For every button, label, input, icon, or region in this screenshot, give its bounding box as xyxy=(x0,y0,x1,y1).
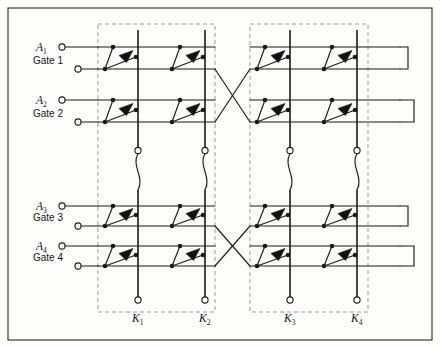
cell-triangle-icon xyxy=(271,104,285,116)
cell-diag-right xyxy=(172,110,203,122)
cell-node-rail xyxy=(134,253,139,258)
cell-triangle-icon xyxy=(119,104,133,116)
cell-node-rail xyxy=(286,213,291,218)
crossover-upper xyxy=(215,69,250,122)
return-link-upper-1 xyxy=(400,47,408,69)
terminal-gate3[interactable] xyxy=(75,223,81,229)
terminal-k2[interactable] xyxy=(202,297,208,303)
cell-triangle-icon xyxy=(119,209,133,221)
cell-diag-left xyxy=(324,100,332,122)
switch-cell-a1-k1[interactable] xyxy=(103,45,139,72)
cell-triangle-icon xyxy=(186,104,200,116)
switch-cell-a2-k2[interactable] xyxy=(170,98,206,125)
return-link-lower-2 xyxy=(400,246,414,266)
terminal-a2[interactable] xyxy=(59,97,65,103)
crossover-lower xyxy=(215,226,250,266)
crossbar-matrix-diagram: A1 A2 A3 A4 Gate 1 Gate 2 Gate 3 Gate 4 … xyxy=(0,0,440,348)
cell-triangle-icon xyxy=(338,209,352,221)
label-a1: A1 xyxy=(35,41,47,56)
cell-node-rail xyxy=(286,253,291,258)
switch-cell-a3-k3[interactable] xyxy=(255,204,291,229)
label-k2: K2 xyxy=(198,312,211,327)
terminal-k1-mid[interactable] xyxy=(135,147,141,153)
dashed-group-left xyxy=(98,24,215,312)
cell-diag-right xyxy=(257,255,288,266)
terminal-k4-mid[interactable] xyxy=(354,147,360,153)
right-edge-returns xyxy=(400,47,414,266)
terminal-gate1[interactable] xyxy=(75,66,81,72)
switch-cell-a2-k3[interactable] xyxy=(255,98,291,125)
curve-link-k1 xyxy=(136,154,140,190)
switch-cell-a4-k1[interactable] xyxy=(103,244,139,269)
terminal-k4[interactable] xyxy=(354,297,360,303)
cell-diag-right xyxy=(324,215,355,226)
label-gate3: Gate 3 xyxy=(33,212,63,223)
label-k3: K3 xyxy=(283,312,296,327)
switch-cell-a4-k2[interactable] xyxy=(170,244,206,269)
switch-cell-a1-k2[interactable] xyxy=(170,45,206,72)
cell-triangle-icon xyxy=(186,51,200,63)
cell-node-rail xyxy=(134,55,139,60)
cell-diag-right xyxy=(105,215,136,226)
rail-mid-terminals xyxy=(135,147,360,153)
cell-node-rail xyxy=(201,253,206,258)
switch-cell-a3-k4[interactable] xyxy=(322,204,358,229)
terminal-k1[interactable] xyxy=(135,297,141,303)
cell-diag-left xyxy=(105,100,113,122)
terminal-a1[interactable] xyxy=(59,44,65,50)
cell-diag-right xyxy=(105,255,136,266)
terminal-a4[interactable] xyxy=(59,243,65,249)
cell-triangle-icon xyxy=(338,51,352,63)
cell-diag-right xyxy=(172,57,203,69)
cell-diag-left xyxy=(257,47,265,69)
cell-node-rail xyxy=(353,213,358,218)
cell-node-rail xyxy=(286,55,291,60)
terminal-k3-mid[interactable] xyxy=(287,147,293,153)
cell-node-rail xyxy=(353,253,358,258)
bus-lines-left xyxy=(98,47,215,266)
switch-cell-a1-k3[interactable] xyxy=(255,45,291,72)
terminal-gate4[interactable] xyxy=(75,263,81,269)
switch-cell-a3-k1[interactable] xyxy=(103,204,139,229)
cell-triangle-icon xyxy=(271,209,285,221)
curve-link-k2 xyxy=(203,154,207,190)
cell-node-rail xyxy=(201,108,206,113)
curve-link-k3 xyxy=(288,154,292,190)
cell-node-rail xyxy=(201,55,206,60)
cell-node-rail xyxy=(134,108,139,113)
cell-triangle-icon xyxy=(186,249,200,261)
curved-links xyxy=(136,154,359,190)
cell-diag-left xyxy=(172,100,180,122)
cell-triangle-icon xyxy=(338,249,352,261)
cell-triangle-icon xyxy=(186,209,200,221)
cell-diag-right xyxy=(105,110,136,122)
cell-diag-right xyxy=(257,57,288,69)
switch-cell-a2-k4[interactable] xyxy=(322,98,358,125)
label-gate1: Gate 1 xyxy=(33,55,63,66)
return-link-lower-1 xyxy=(400,206,408,226)
return-link-upper-2 xyxy=(400,100,414,122)
curve-link-k4 xyxy=(355,154,359,190)
terminal-k3[interactable] xyxy=(287,297,293,303)
cell-diag-right xyxy=(324,110,355,122)
cell-diag-right xyxy=(324,57,355,69)
dashed-group-right xyxy=(250,24,368,312)
switch-cell-a4-k3[interactable] xyxy=(255,244,291,269)
label-k1: K1 xyxy=(131,312,144,327)
cell-diag-right xyxy=(172,215,203,226)
terminal-gate2[interactable] xyxy=(75,119,81,125)
switch-cell-a2-k1[interactable] xyxy=(103,98,139,125)
output-labels: K1 K2 K3 K4 xyxy=(131,312,363,327)
cell-node-rail xyxy=(134,213,139,218)
label-k4: K4 xyxy=(350,312,363,327)
terminal-a3[interactable] xyxy=(59,203,65,209)
cell-node-rail xyxy=(201,213,206,218)
cell-node-rail xyxy=(353,108,358,113)
switch-cell-a4-k4[interactable] xyxy=(322,244,358,269)
figure-root: A1 A2 A3 A4 Gate 1 Gate 2 Gate 3 Gate 4 … xyxy=(0,0,440,348)
switch-cell-a1-k4[interactable] xyxy=(322,45,358,72)
cell-triangle-icon xyxy=(119,249,133,261)
terminal-k2-mid[interactable] xyxy=(202,147,208,153)
cell-diag-left xyxy=(105,47,113,69)
switch-cell-a3-k2[interactable] xyxy=(170,204,206,229)
